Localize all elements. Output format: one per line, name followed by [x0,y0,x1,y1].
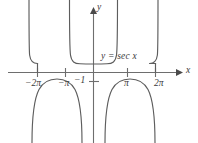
x-axis-label: x [186,66,190,76]
y-axis-label: y [97,3,101,13]
tick-label-two-pi: 2π [154,79,164,89]
tick-label-neg-two-pi: −2π [25,79,41,89]
graph-canvas [0,0,198,143]
tick-label-pi: π [124,79,129,89]
branch-upper-right [150,0,159,64]
branch-lower-right [105,79,155,143]
sec-x-graph-figure: x y y = sec x −2π −π −1 π 2π [0,0,198,143]
y-axis [90,7,97,143]
branch-lower-left [32,79,82,143]
y-axis-arrowhead [90,7,97,14]
branch-upper-left [29,0,38,64]
tick-label-neg-one: −1 [74,76,85,86]
x-axis-arrowhead [176,69,183,76]
x-axis [8,69,183,76]
tick-label-neg-pi: −π [58,79,69,89]
equation-label: y = sec x [101,52,137,62]
